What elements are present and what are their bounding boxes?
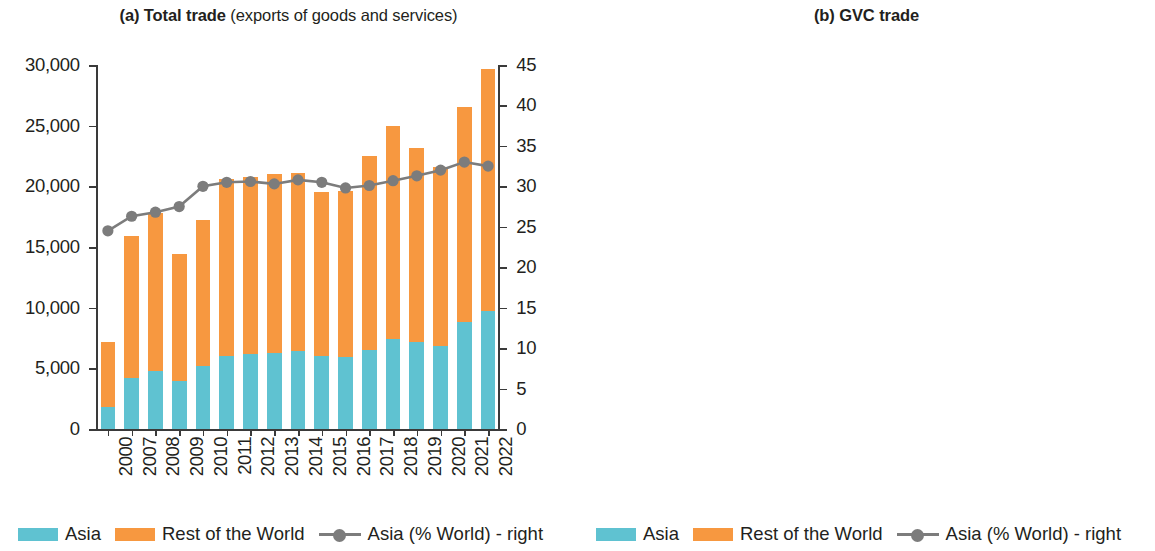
line-marker xyxy=(269,178,280,189)
line-marker xyxy=(150,207,161,218)
y-tick-label-right: 35 xyxy=(516,135,536,157)
x-tick-label: 2012 xyxy=(257,437,279,476)
legend-item-line-b: Asia (% World) - right xyxy=(897,523,1121,545)
line-marker xyxy=(387,175,398,186)
legend-a: Asia Rest of the World Asia (% World) - … xyxy=(0,523,577,545)
y-tick-label-left: 20,000 xyxy=(25,175,80,197)
y-tick-label-left: 30,000 xyxy=(25,54,80,76)
panel-total-trade: (a) Total trade (exports of goods and se… xyxy=(0,0,577,551)
line-marker xyxy=(221,177,232,188)
y-tick-right xyxy=(500,267,507,269)
legend-line-marker-icon xyxy=(319,527,361,541)
x-tick-label: 2013 xyxy=(281,437,303,476)
legend-swatch-asia xyxy=(596,528,636,541)
x-axis-labels-a: 2000200720082009201020112012201320142015… xyxy=(96,433,500,525)
legend-item-line-a: Asia (% World) - right xyxy=(319,523,543,545)
panel-a-title-bold: (a) Total trade xyxy=(120,6,226,24)
y-tick-right xyxy=(500,429,507,431)
legend-label-asia-share: Asia (% World) - right xyxy=(368,523,543,545)
y-tick-left xyxy=(89,65,96,67)
y-tick-right xyxy=(500,65,507,67)
x-tick-label: 2017 xyxy=(376,437,398,476)
y-tick-label-left: 10,000 xyxy=(25,297,80,319)
y-tick-right xyxy=(500,146,507,148)
x-tick-label: 2007 xyxy=(139,437,161,476)
legend-item-asia-b: Asia xyxy=(596,523,679,545)
legend-label-asia: Asia xyxy=(643,523,679,545)
legend-label-asia: Asia xyxy=(65,523,101,545)
x-tick-label: 2009 xyxy=(186,437,208,476)
y-tick-label-right: 40 xyxy=(516,94,536,116)
y-tick-label-right: 25 xyxy=(516,216,536,238)
y-tick-label-left: 5,000 xyxy=(35,357,80,379)
legend-item-row-a: Rest of the World xyxy=(115,523,305,545)
line-marker xyxy=(174,201,185,212)
panel-b-title-bold: (b) GVC trade xyxy=(814,6,919,24)
line-marker xyxy=(316,177,327,188)
x-tick-label: 2020 xyxy=(448,437,470,476)
line-marker xyxy=(483,161,494,172)
x-tick-label: 2019 xyxy=(424,437,446,476)
x-tick-label: 2011 xyxy=(234,437,256,475)
legend-label-asia-share: Asia (% World) - right xyxy=(946,523,1121,545)
y-tick-left xyxy=(89,126,96,128)
line-marker xyxy=(364,180,375,191)
y-tick-label-right: 45 xyxy=(516,54,536,76)
y-tick-label-right: 10 xyxy=(516,337,536,359)
y-tick-left xyxy=(89,368,96,370)
legend-label-rest-of-world: Rest of the World xyxy=(740,523,883,545)
line-marker xyxy=(411,170,422,181)
line-marker xyxy=(435,165,446,176)
x-tick-label: 2010 xyxy=(210,437,232,476)
panel-a-title-light: (exports of goods and services) xyxy=(226,6,458,24)
legend-b: Asia Rest of the World Asia (% World) - … xyxy=(578,523,1155,545)
y-tick-right xyxy=(500,186,507,188)
trend-line xyxy=(108,162,488,231)
trade-figure: (a) Total trade (exports of goods and se… xyxy=(0,0,1155,551)
y-tick-right xyxy=(500,389,507,391)
panel-b-title: (b) GVC trade xyxy=(578,4,1155,26)
panel-a-title: (a) Total trade (exports of goods and se… xyxy=(0,4,577,26)
legend-swatch-rest-of-world xyxy=(115,528,155,541)
x-tick-label: 2008 xyxy=(162,437,184,476)
x-tick-label: 2022 xyxy=(495,437,517,476)
y-tick-right xyxy=(500,227,507,229)
y-tick-left xyxy=(89,186,96,188)
x-tick-label: 2015 xyxy=(329,437,351,476)
y-tick-left xyxy=(89,308,96,310)
y-tick-label-left: 15,000 xyxy=(25,236,80,258)
x-tick-label: 2000 xyxy=(115,437,137,476)
line-marker xyxy=(459,156,470,167)
plot-area-a: 05,00010,00015,00020,00025,00030,0000510… xyxy=(96,65,500,429)
legend-swatch-rest-of-world xyxy=(693,528,733,541)
y-tick-label-right: 15 xyxy=(516,297,536,319)
y-tick-right xyxy=(500,105,507,107)
line-marker xyxy=(340,182,351,193)
panel-gvc-trade: (b) GVC trade 05,00010,00015,00020,00025… xyxy=(578,0,1155,551)
y-tick-label-right: 20 xyxy=(516,256,536,278)
y-tick-label-left: 25,000 xyxy=(25,115,80,137)
line-marker xyxy=(292,174,303,185)
legend-swatch-asia xyxy=(18,528,58,541)
legend-item-asia-a: Asia xyxy=(18,523,101,545)
y-tick-right xyxy=(500,348,507,350)
x-tick-label: 2018 xyxy=(400,437,422,476)
legend-line-marker-icon xyxy=(897,527,939,541)
y-tick-left xyxy=(89,429,96,431)
line-series-a xyxy=(96,65,500,429)
y-tick-label-right: 0 xyxy=(516,418,526,440)
y-tick-right xyxy=(500,308,507,310)
line-marker xyxy=(102,225,113,236)
line-marker xyxy=(245,176,256,187)
line-marker xyxy=(197,181,208,192)
x-tick-label: 2016 xyxy=(353,437,375,476)
y-tick-left xyxy=(89,247,96,249)
legend-label-rest-of-world: Rest of the World xyxy=(162,523,305,545)
legend-item-row-b: Rest of the World xyxy=(693,523,883,545)
x-tick-label: 2014 xyxy=(305,437,327,476)
y-tick-label-right: 30 xyxy=(516,175,536,197)
y-tick-label-right: 5 xyxy=(516,378,526,400)
x-tick-label: 2021 xyxy=(471,437,493,476)
y-tick-label-left: 0 xyxy=(70,418,80,440)
line-marker xyxy=(126,211,137,222)
